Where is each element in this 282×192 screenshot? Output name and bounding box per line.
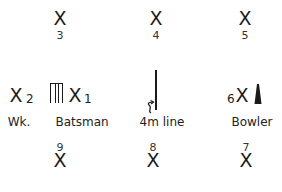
fielder-2-marker: X [9,86,22,105]
fielder-6-label: 6 [227,93,235,105]
four-meter-line-label: 4m line [140,116,185,128]
bowler-label: Bowler [231,116,272,128]
fielder-1-marker: X [68,86,81,105]
batsman-label: Batsman [55,116,108,128]
fielder-9-marker: X [53,151,66,170]
fielder-7-marker: X [239,151,252,170]
fielder-2-label: 2 [26,93,34,105]
wicket-stumps-icon [50,83,63,103]
fielder-4-marker: X [149,9,162,28]
fielder-1-label: 1 [84,93,92,105]
fielder-8-marker: X [146,151,159,170]
fielder-4-label: 4 [153,30,160,41]
wicketkeeper-label: Wk. [8,116,31,128]
fielder-3-label: 3 [57,30,64,41]
fielder-3-marker: X [53,9,66,28]
fielder-5-marker: X [238,9,251,28]
curly-arrow-icon [144,100,156,114]
bowler-marker-icon [254,84,262,104]
fielder-6-marker: X [235,86,248,105]
fielder-5-label: 5 [242,30,249,41]
